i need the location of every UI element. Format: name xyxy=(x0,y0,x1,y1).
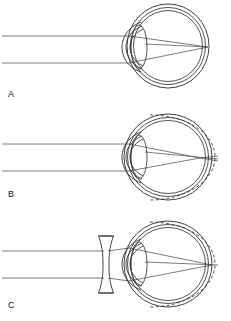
refracted-ray-lower xyxy=(129,265,212,281)
panel-label-a: A xyxy=(8,90,14,99)
cornea-inner-c xyxy=(130,246,143,283)
panel-b-myopic-eye xyxy=(0,107,231,213)
myopia-figure: A B xyxy=(0,0,231,321)
focal-axis-ray xyxy=(145,262,218,265)
panel-a-normal-eye xyxy=(0,0,231,104)
refracted-ray-upper xyxy=(129,248,212,265)
focal-axis-ray xyxy=(145,152,218,159)
panel-c-corrected-eye xyxy=(0,215,231,321)
sclera-outer-a xyxy=(127,4,209,88)
concave-corrective-lens xyxy=(99,236,114,293)
refracted-ray-upper xyxy=(129,144,218,161)
panel-label-b: B xyxy=(8,190,14,199)
refracted-ray-lower xyxy=(129,47,208,63)
panel-label-c: C xyxy=(8,301,15,310)
